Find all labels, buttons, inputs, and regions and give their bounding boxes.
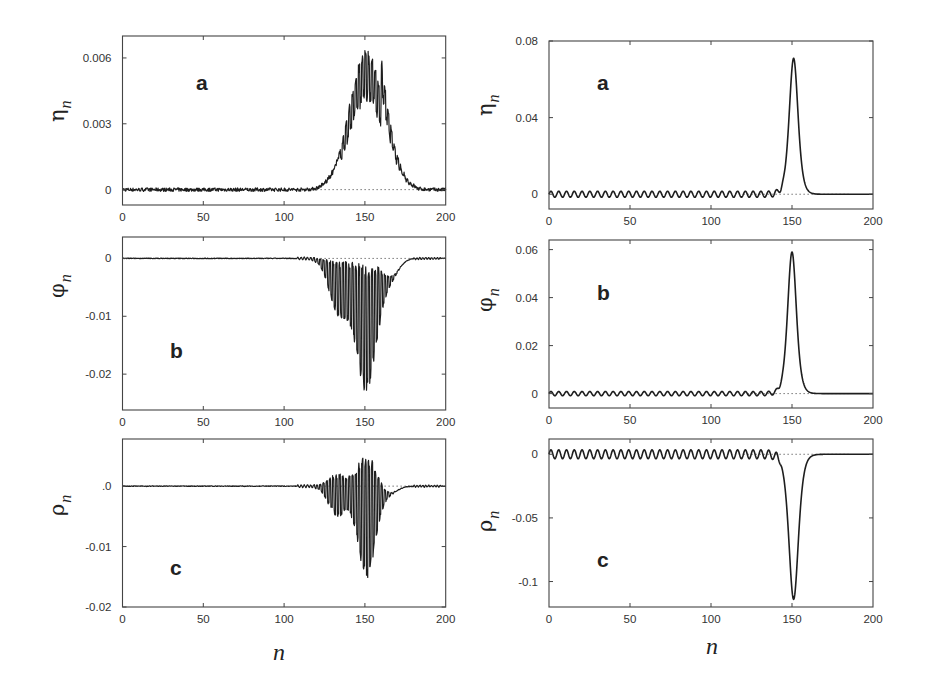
data-line bbox=[549, 252, 873, 396]
y-tick-label: 0 bbox=[105, 252, 111, 264]
y-tick-label: -0.05 bbox=[512, 512, 538, 524]
x-tick-label: 50 bbox=[624, 215, 637, 227]
figure-canvas: 05010015020000.0030.006 0501001502000-0.… bbox=[0, 0, 927, 690]
x-tick-label: 150 bbox=[355, 416, 374, 428]
y-tick-label: .0 bbox=[102, 480, 112, 492]
x-tick-label: 100 bbox=[275, 211, 294, 223]
y-tick-label: 0.006 bbox=[83, 52, 112, 64]
y-tick-label: 0.08 bbox=[516, 35, 538, 47]
x-tick-label: 50 bbox=[197, 613, 210, 625]
y-tick-label: -0.01 bbox=[85, 310, 111, 322]
x-tick-label: 200 bbox=[436, 613, 455, 625]
x-tick-label: 150 bbox=[782, 613, 801, 625]
right-b-annotations: b φn bbox=[473, 281, 610, 312]
right-a-annotations: a ηn bbox=[473, 71, 609, 116]
x-tick-label: 0 bbox=[546, 215, 552, 227]
y-tick-label: 0.04 bbox=[516, 292, 539, 304]
x-tick-label: 200 bbox=[863, 613, 882, 625]
y-tick-label: 0 bbox=[532, 448, 538, 460]
x-tick-label: 100 bbox=[275, 613, 294, 625]
data-line bbox=[123, 51, 446, 192]
panel-letter-right-c: c bbox=[597, 548, 609, 571]
plot-frame bbox=[123, 439, 446, 607]
x-tick-label: 200 bbox=[436, 416, 455, 428]
y-tick-label: 0 bbox=[105, 184, 111, 196]
y-tick-label: 0.06 bbox=[516, 244, 538, 256]
panel-left-c: 050100150200.0-0.01-0.02 bbox=[85, 439, 455, 625]
x-tick-label: 50 bbox=[197, 416, 210, 428]
y-tick-label: -0.01 bbox=[85, 541, 111, 553]
x-tick-label: 0 bbox=[119, 211, 125, 223]
x-tick-label: 50 bbox=[197, 211, 210, 223]
x-tick-label: 150 bbox=[782, 414, 801, 426]
panel-right-a: 05010015020000.040.08 bbox=[516, 35, 883, 227]
x-tick-label: 150 bbox=[355, 613, 374, 625]
x-tick-label: 100 bbox=[701, 215, 720, 227]
x-tick-label: 50 bbox=[624, 613, 637, 625]
ylabel-left-a: ηn bbox=[45, 100, 74, 122]
panel-letter-right-a: a bbox=[597, 71, 609, 94]
xlabel-right: n bbox=[706, 633, 718, 659]
y-tick-label: -0.1 bbox=[518, 576, 538, 588]
data-line bbox=[123, 257, 446, 390]
x-tick-label: 200 bbox=[863, 414, 882, 426]
x-tick-label: 0 bbox=[546, 613, 552, 625]
ylabel-right-c: ρn bbox=[473, 511, 502, 532]
x-tick-label: 100 bbox=[701, 414, 720, 426]
y-tick-label: 0.02 bbox=[516, 340, 538, 352]
ylabel-left-c: ρn bbox=[45, 495, 74, 516]
plot-frame bbox=[549, 439, 873, 607]
plot-frame bbox=[549, 240, 873, 408]
ylabel-left-b: φn bbox=[45, 274, 74, 298]
ylabel-right-b: φn bbox=[473, 288, 502, 312]
panel-right-b: 05010015020000.020.040.06 bbox=[516, 240, 883, 426]
x-tick-label: 50 bbox=[624, 414, 637, 426]
x-tick-label: 0 bbox=[119, 416, 125, 428]
y-tick-label: 0 bbox=[532, 388, 538, 400]
x-tick-label: 200 bbox=[436, 211, 455, 223]
y-tick-label: 0 bbox=[532, 188, 538, 200]
panel-left-b: 0501001502000-0.01-0.02 bbox=[85, 237, 455, 428]
y-tick-label: 0.04 bbox=[516, 112, 539, 124]
x-tick-label: 150 bbox=[782, 215, 801, 227]
x-tick-label: 0 bbox=[546, 414, 552, 426]
left-c-annotations: c ρn bbox=[45, 495, 182, 579]
left-a-annotations: a ηn bbox=[45, 71, 208, 122]
y-tick-label: -0.02 bbox=[85, 368, 111, 380]
x-tick-label: 200 bbox=[863, 215, 882, 227]
xlabel-left: n bbox=[273, 639, 285, 665]
panel-left-a: 05010015020000.0030.006 bbox=[83, 36, 456, 223]
left-b-annotations: b φn bbox=[45, 274, 183, 362]
y-tick-label: 0.003 bbox=[83, 118, 112, 130]
plot-frame bbox=[123, 36, 446, 205]
x-tick-label: 0 bbox=[119, 613, 125, 625]
plot-frame bbox=[123, 237, 446, 410]
panel-letter-left-c: c bbox=[170, 556, 182, 579]
ylabel-right-a: ηn bbox=[473, 94, 502, 116]
x-tick-label: 150 bbox=[355, 211, 374, 223]
data-line bbox=[549, 450, 873, 600]
panel-letter-left-b: b bbox=[170, 339, 183, 362]
x-tick-label: 100 bbox=[275, 416, 294, 428]
panel-letter-left-a: a bbox=[196, 71, 208, 94]
plot-frame bbox=[549, 41, 873, 209]
x-tick-label: 100 bbox=[701, 613, 720, 625]
panel-letter-right-b: b bbox=[597, 281, 610, 304]
right-c-annotations: c ρn bbox=[473, 511, 609, 571]
y-tick-label: -0.02 bbox=[85, 601, 111, 613]
panel-right-c: 0501001502000-0.05-0.1 bbox=[512, 439, 883, 625]
